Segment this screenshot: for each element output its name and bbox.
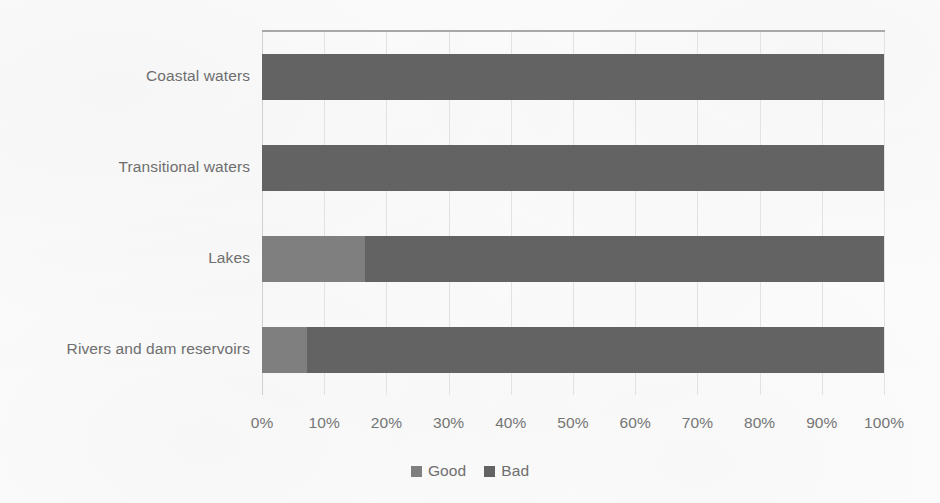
x-tick-label: 10% (309, 414, 340, 432)
bar-rows (262, 32, 884, 395)
legend-label: Bad (501, 462, 529, 480)
x-tick-label: 40% (495, 414, 526, 432)
stacked-bar-chart: Coastal watersTransitional watersLakesRi… (0, 0, 940, 503)
category-label: Rivers and dam reservoirs (67, 340, 250, 358)
legend-swatch-icon (484, 466, 495, 477)
x-tick-label: 30% (433, 414, 464, 432)
x-tick-label: 80% (744, 414, 775, 432)
legend-item[interactable]: Bad (484, 462, 529, 480)
legend-label: Good (428, 462, 466, 480)
x-tick-label: 0% (251, 414, 274, 432)
legend-swatch-icon (411, 466, 422, 477)
bar-row (262, 236, 884, 282)
bar-row (262, 145, 884, 191)
category-label: Coastal waters (146, 67, 250, 85)
plot-area (262, 32, 884, 395)
x-tick-label: 70% (682, 414, 713, 432)
legend-item[interactable]: Good (411, 462, 466, 480)
x-tick-label: 90% (806, 414, 837, 432)
bar-row (262, 54, 884, 100)
x-tick-label: 60% (620, 414, 651, 432)
x-tick-label: 50% (557, 414, 588, 432)
category-label: Transitional waters (119, 158, 250, 176)
bar-segment-bad[interactable] (307, 327, 884, 373)
gridline-100 (884, 32, 885, 395)
bar-segment-bad[interactable] (262, 54, 884, 100)
bar-segment-good[interactable] (262, 236, 365, 282)
chart-legend: GoodBad (0, 462, 940, 480)
bar-row (262, 327, 884, 373)
bar-segment-bad[interactable] (365, 236, 884, 282)
bar-segment-good[interactable] (262, 327, 307, 373)
category-label: Lakes (208, 249, 250, 267)
bar-segment-bad[interactable] (262, 145, 884, 191)
x-tick-label: 20% (371, 414, 402, 432)
x-tick-label: 100% (864, 414, 904, 432)
